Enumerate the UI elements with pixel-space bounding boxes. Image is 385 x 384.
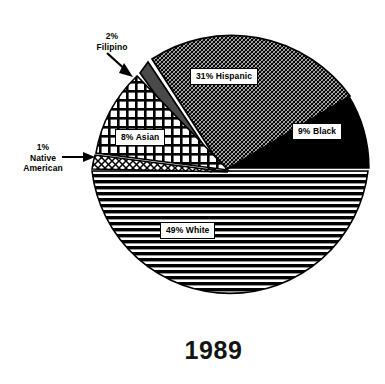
pie-chart-graphic xyxy=(0,0,385,384)
pie-slice-white xyxy=(92,171,368,293)
chart-caption-year: 1989 xyxy=(0,336,385,365)
slice-label-asian: 8% Asian xyxy=(115,129,165,146)
pie-chart: 31% Hispanic 9% Black 8% Asian 49% White… xyxy=(0,0,385,384)
filipino-callout-arrow xyxy=(107,53,133,77)
callout-filipino-percent: 2% xyxy=(86,31,138,42)
callout-native-name-line2: American xyxy=(8,163,78,174)
callout-label-filipino: 2% Filipino xyxy=(86,31,138,52)
slice-label-white: 49% White xyxy=(160,222,215,239)
callout-native-percent: 1% xyxy=(8,142,78,153)
callout-filipino-name: Filipino xyxy=(86,42,138,53)
slice-label-black: 9% Black xyxy=(292,123,342,140)
slice-label-hispanic: 31% Hispanic xyxy=(190,68,258,85)
callout-native-name-line1: Native xyxy=(8,153,78,164)
callout-label-native-american: 1% Native American xyxy=(8,142,78,174)
